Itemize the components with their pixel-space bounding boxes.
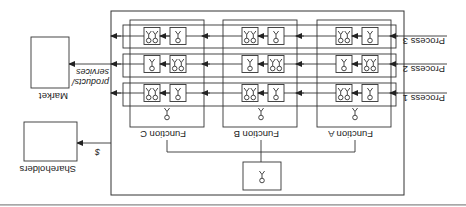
money-flow-label: $: [95, 147, 100, 156]
top-unit: [243, 162, 281, 190]
process-3-row: [123, 25, 396, 48]
process-1-row: [123, 83, 396, 106]
market-label: Market: [39, 92, 68, 102]
function-c-head-icon: [164, 108, 169, 120]
function-a-head-icon: [352, 108, 357, 120]
process-3-label: Process 3: [403, 37, 445, 47]
function-b-label: Function B: [234, 130, 279, 140]
function-c-label: Function C: [140, 130, 186, 140]
function-b-head-icon: [258, 108, 263, 120]
process-1-label: Process 1: [403, 94, 445, 104]
hierarchy-connector: [167, 140, 355, 162]
shareholders-box: [24, 122, 77, 161]
products-services-label: products/ services: [71, 66, 109, 86]
market-box: [31, 37, 69, 88]
organization-process-diagram: Function A Function B Function C Process…: [0, 0, 466, 207]
process-2-row: [123, 54, 396, 77]
process-cells: [144, 28, 378, 102]
diagram-canvas: Function A Function B Function C Process…: [0, 0, 466, 207]
bottom-rule: [0, 204, 466, 206]
process-2-label: Process 2: [403, 65, 445, 75]
function-a-label: Function A: [328, 130, 373, 140]
shareholders-label: Shareholders: [19, 165, 76, 175]
diagram-graphics: [0, 0, 466, 207]
cell-arrows: [160, 36, 362, 93]
